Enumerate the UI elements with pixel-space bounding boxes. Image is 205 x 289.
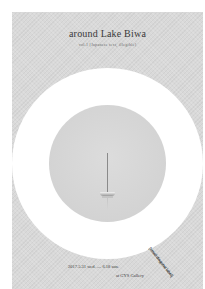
poster-subtitle: vol.1 [Japanese text, illegible] (12, 42, 203, 47)
exhibition-dates: 2017.5.31 wed. — 6.18 sun. (68, 264, 119, 269)
diagonal-stamp: [small diagonal label] (148, 246, 174, 278)
sailboat-reflection (107, 198, 108, 210)
exhibition-venue: at GYS Gallery (116, 273, 144, 278)
poster-title: around Lake Biwa (12, 28, 203, 39)
sailboat-mast (107, 153, 108, 193)
exhibition-poster: around Lake Biwa vol.1 [Japanese text, i… (12, 12, 203, 289)
